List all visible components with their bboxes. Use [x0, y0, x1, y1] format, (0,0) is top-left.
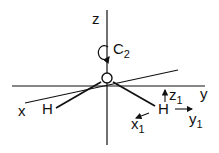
hydrogen-right-label: H: [158, 100, 169, 117]
water-molecule-diagram: z y x C2 H H z1 y1 x1: [0, 0, 219, 153]
c2-label: C2: [113, 40, 130, 60]
y1-label: y1: [189, 110, 203, 130]
z1-label: z1: [169, 86, 183, 106]
oxygen-atom: [102, 73, 112, 83]
hydrogen-left-label: H: [42, 100, 53, 117]
y-axis-label: y: [200, 85, 208, 102]
x1-label: x1: [131, 115, 145, 135]
x-axis-label: x: [18, 102, 26, 119]
z-axis-label: z: [92, 10, 100, 27]
